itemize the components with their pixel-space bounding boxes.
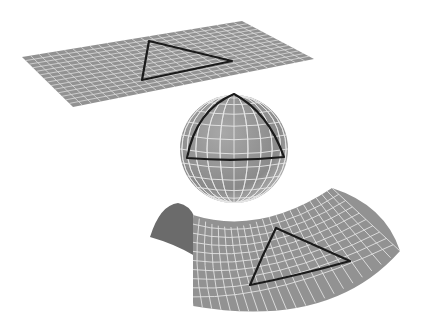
geometry-illustration [0,0,421,328]
diagram-canvas: Triangles on surfaces of zero, positive … [0,0,421,328]
saddle-cap [150,203,195,256]
sphere [180,94,288,203]
saddle-surface [150,188,400,314]
flat-plane [22,21,314,107]
